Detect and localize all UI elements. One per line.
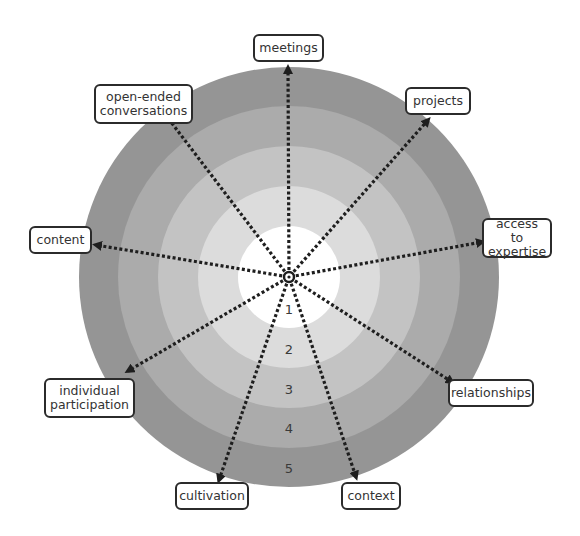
label-meetings: meetings <box>253 34 324 62</box>
label-projects-text: projects <box>413 94 463 108</box>
label-individual-participation: individual participation <box>44 378 135 418</box>
label-meetings-text: meetings <box>259 41 317 55</box>
label-access-to-expertise: access to expertise <box>482 218 552 258</box>
label-open-ended-line1: open-ended <box>106 90 181 104</box>
ring-label-1: 1 <box>279 302 299 317</box>
label-context: context <box>341 482 401 510</box>
label-content: content <box>29 226 92 254</box>
label-relationships-text: relationships <box>451 386 531 400</box>
ring-label-2: 2 <box>279 342 299 357</box>
label-cultivation-text: cultivation <box>179 489 245 503</box>
label-open-ended-conversations: open-ended conversations <box>94 84 193 124</box>
label-individual-line1: individual <box>59 384 120 398</box>
label-individual-line2: participation <box>50 398 129 412</box>
ring-label-4: 4 <box>279 421 299 436</box>
label-projects: projects <box>405 87 471 115</box>
label-context-text: context <box>347 489 394 503</box>
ring-label-5: 5 <box>279 461 299 476</box>
label-open-ended-line2: conversations <box>100 104 187 118</box>
concentric-diagram <box>0 0 580 536</box>
label-relationships: relationships <box>448 379 534 407</box>
label-content-text: content <box>37 233 85 247</box>
ring-label-3: 3 <box>279 382 299 397</box>
label-cultivation: cultivation <box>175 482 249 510</box>
label-access-line1: access to <box>490 217 544 245</box>
label-access-line2: expertise <box>488 245 546 259</box>
